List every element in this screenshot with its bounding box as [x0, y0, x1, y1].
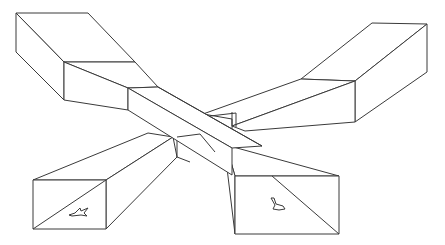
- bottom-left-block: [33, 133, 177, 229]
- top-right-block: [203, 23, 427, 131]
- bottom-right-block: [226, 145, 339, 234]
- prism-crossing-diagram: [0, 0, 445, 245]
